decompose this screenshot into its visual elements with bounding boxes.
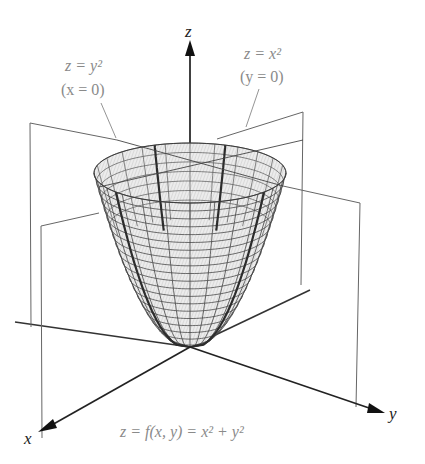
paraboloid-surface bbox=[94, 140, 303, 347]
y-axis-arrow-icon bbox=[367, 403, 385, 413]
z-axis-label: z bbox=[184, 22, 192, 41]
left-trace-condition: (x = 0) bbox=[61, 81, 105, 99]
z-axis-arrow-icon bbox=[185, 40, 195, 56]
figure-caption: z = f(x, y) = x² + y² bbox=[119, 423, 245, 441]
paraboloid-figure: z x y z = y² (x = 0) z = x² (y = 0) z = … bbox=[0, 0, 425, 464]
right-trace-equation: z = x² bbox=[243, 45, 282, 62]
annotation-leaders bbox=[101, 89, 259, 138]
right-trace-condition: (y = 0) bbox=[240, 68, 284, 86]
x-axis-label: x bbox=[23, 429, 32, 448]
left-trace-equation: z = y² bbox=[64, 57, 103, 75]
x-axis-arrow-icon bbox=[38, 419, 57, 432]
y-axis-label: y bbox=[387, 404, 397, 423]
front-axes bbox=[38, 347, 385, 432]
